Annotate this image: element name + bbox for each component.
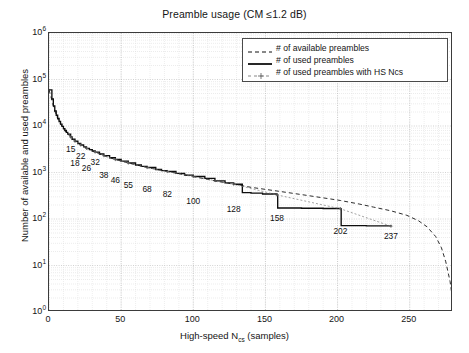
- x-tick-label: 150: [257, 314, 272, 324]
- x-axis-label: High-speed Ncs (samples): [0, 330, 469, 343]
- data-annotation: 158: [270, 213, 284, 223]
- data-annotation: 32: [90, 157, 99, 167]
- x-tick-label: 50: [115, 314, 125, 324]
- data-annotation: 68: [142, 184, 151, 194]
- x-tick-label: 100: [185, 314, 200, 324]
- legend-swatch-dotted-marker-icon: [247, 67, 273, 77]
- legend-label: # of available preambles: [276, 43, 369, 53]
- y-axis-label: Number of available and used preambles: [19, 36, 30, 276]
- data-annotation: 15: [66, 144, 75, 154]
- data-annotation: 202: [333, 226, 347, 236]
- data-annotation: 55: [124, 180, 133, 190]
- x-tick-label: 250: [401, 314, 416, 324]
- legend-item[interactable]: # of used preambles: [247, 54, 442, 66]
- data-annotation: 38: [99, 170, 108, 180]
- data-annotation: 22: [76, 151, 85, 161]
- legend-label: # of used preambles: [276, 55, 354, 65]
- data-annotation: 128: [227, 204, 241, 214]
- figure-canvas: Preamble usage (CM ≤1.2 dB) 100101102103…: [0, 0, 469, 353]
- x-axis-label-units: (samples): [247, 330, 289, 341]
- legend-item[interactable]: # of used preambles with HS Ncs: [247, 66, 442, 78]
- legend-swatch-solid-icon: [247, 55, 273, 65]
- data-annotation: 237: [384, 231, 398, 241]
- legend-swatch-dashed-icon: [247, 43, 273, 53]
- legend-label: # of used preambles with HS Ncs: [276, 67, 403, 77]
- data-annotation: 46: [111, 175, 120, 185]
- data-annotation: 82: [163, 189, 172, 199]
- x-tick-label: 200: [329, 314, 344, 324]
- chart-legend[interactable]: # of available preambles# of used preamb…: [242, 38, 448, 82]
- x-tick-label: 0: [45, 314, 50, 324]
- x-axis-label-subscript: cs: [238, 336, 245, 343]
- data-annotation: 100: [186, 196, 200, 206]
- legend-item[interactable]: # of available preambles: [247, 42, 442, 54]
- x-axis-label-main: High-speed N: [180, 330, 238, 341]
